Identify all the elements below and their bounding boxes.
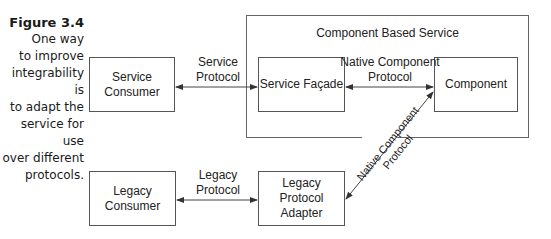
edge-label-line: Service (180, 55, 256, 70)
native-protocol-label: Native Component Protocol (338, 55, 442, 85)
edge-label-line: Native Component (338, 55, 442, 70)
legacy-protocol-label: Legacy Protocol (180, 168, 256, 198)
service-protocol-label: Service Protocol (180, 55, 256, 85)
edge-label-line: Protocol (180, 70, 256, 85)
edge-label-line: Legacy (180, 168, 256, 183)
connector-lines (0, 0, 551, 239)
edge-label-line: Protocol (180, 183, 256, 198)
edge-label-line: Protocol (338, 70, 442, 85)
